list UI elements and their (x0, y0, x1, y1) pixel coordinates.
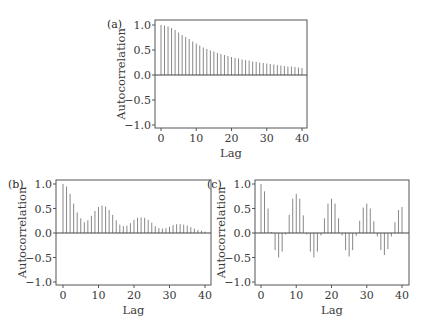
x-tick-label: 20 (127, 289, 141, 302)
x-tick-label: 30 (163, 289, 177, 302)
x-tick-label: 10 (92, 289, 106, 302)
y-tick-label: −1.0 (124, 119, 151, 132)
x-tick-label: 0 (258, 289, 265, 302)
y-tick-label: 0.5 (134, 44, 152, 57)
y-tick-label: 1.0 (35, 178, 53, 191)
y-tick-label: −1.0 (25, 276, 52, 289)
x-tick-label: 40 (395, 289, 409, 302)
x-tick-label: 20 (325, 289, 339, 302)
y-tick-label: −0.5 (124, 94, 151, 107)
y-tick-label: 0.5 (234, 203, 252, 216)
panel-label: (b) (8, 178, 24, 191)
y-tick-label: −1.0 (224, 276, 251, 289)
y-tick-label: 0.5 (35, 203, 53, 216)
x-axis-label: Lag (321, 303, 343, 317)
chart-panel-a: 1.00.50.0−0.5−1.0010203040LagAutocorrela… (107, 18, 309, 160)
chart-panel-c: 1.00.50.0−0.5−1.0010203040LagAutocorrela… (207, 178, 409, 317)
y-axis-label: Autocorrelation (214, 186, 228, 279)
panel-label: (a) (107, 18, 122, 31)
y-tick-label: 0.0 (234, 227, 252, 240)
y-tick-label: 0.0 (35, 227, 53, 240)
x-tick-label: 40 (198, 289, 212, 302)
x-tick-label: 30 (260, 132, 274, 145)
y-axis-label: Autocorrelation (15, 186, 29, 279)
x-tick-label: 0 (60, 289, 67, 302)
y-tick-label: −0.5 (224, 252, 251, 265)
y-tick-label: −0.5 (25, 252, 52, 265)
x-tick-label: 40 (295, 132, 309, 145)
chart-panel-b: 1.00.50.0−0.5−1.0010203040LagAutocorrela… (8, 178, 212, 317)
panel-label: (c) (207, 178, 222, 191)
x-axis-label: Lag (220, 146, 242, 160)
y-tick-label: 0.0 (134, 69, 152, 82)
acf-figure: 1.00.50.0−0.5−1.0010203040LagAutocorrela… (0, 0, 428, 328)
y-axis-label: Autocorrelation (114, 28, 128, 121)
x-tick-label: 0 (158, 132, 165, 145)
x-tick-label: 10 (189, 132, 203, 145)
x-tick-label: 30 (360, 289, 374, 302)
x-tick-label: 20 (225, 132, 239, 145)
y-tick-label: 1.0 (234, 178, 252, 191)
x-axis-label: Lag (123, 303, 145, 317)
y-tick-label: 1.0 (134, 19, 152, 32)
x-tick-label: 10 (289, 289, 303, 302)
